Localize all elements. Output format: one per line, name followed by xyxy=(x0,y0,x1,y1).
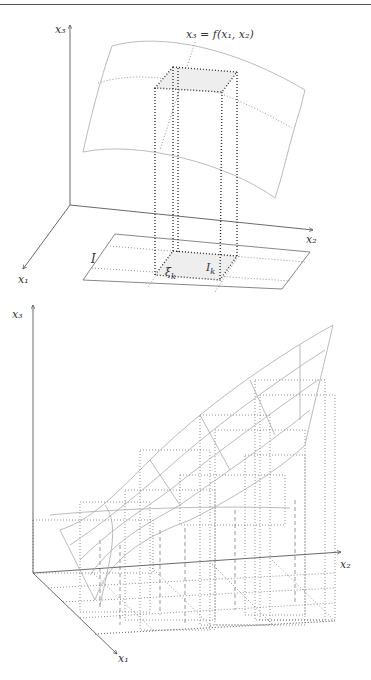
x2-axis xyxy=(70,205,313,230)
riemann-boxes xyxy=(33,380,335,630)
base-grid xyxy=(48,560,335,634)
x1-axis xyxy=(23,205,70,269)
x2-label: x₂ xyxy=(306,233,317,246)
surface-mesh xyxy=(50,325,333,605)
x2-label-bottom: x₂ xyxy=(340,558,351,571)
x1-label-bottom: x₁ xyxy=(118,652,129,665)
x3-label: x₃ xyxy=(55,23,66,36)
x2-axis-bottom xyxy=(33,552,341,573)
surface-f xyxy=(83,41,305,198)
top-figure: x₃ x₂ x₁ x₃ = f(x₁, x₂) I ξk Ik xyxy=(18,23,317,292)
x3-label-bottom: x₃ xyxy=(12,308,23,321)
domain-label: I xyxy=(90,252,96,266)
surface-label: x₃ = f(x₁, x₂) xyxy=(186,28,254,41)
x1-label: x₁ xyxy=(18,273,29,286)
riemann-sum-figures: x₃ x₂ x₁ x₃ = f(x₁, x₂) I ξk Ik xyxy=(0,0,371,680)
bottom-figure: x₃ x₂ x₁ xyxy=(12,305,351,665)
